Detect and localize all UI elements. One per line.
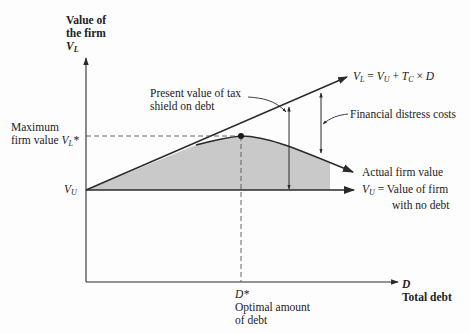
vu-def-line2: with no debt xyxy=(362,199,450,212)
max-label-line1: Maximum xyxy=(11,121,79,134)
y-axis-label-line1: Value of xyxy=(66,14,106,27)
y-axis-label: Value of the firm VL xyxy=(66,14,106,56)
y-axis-label-line2: the firm xyxy=(66,27,106,40)
optimal-line2: of debt xyxy=(235,314,310,327)
tax-shield-annotation: Present value of tax shield on debt xyxy=(150,87,241,113)
x-axis-text: Total debt xyxy=(402,291,452,304)
vl-equation: VL = VU + TC × D xyxy=(353,70,434,86)
distress-leader xyxy=(323,114,348,124)
dstar-symbol: D* xyxy=(235,288,310,301)
vu-axis-label: VU xyxy=(64,183,77,199)
tax-shield-line2: shield on debt xyxy=(150,100,241,113)
vu-definition: VU = Value of firm with no debt xyxy=(362,183,450,212)
actual-firm-value-label: Actual firm value xyxy=(362,166,443,179)
firm-value-area xyxy=(86,136,330,190)
x-axis-symbol: D xyxy=(402,278,452,291)
max-firm-value-label: Maximum firm value VL* xyxy=(11,121,79,150)
x-axis-label: D Total debt xyxy=(402,278,452,304)
tax-shield-line1: Present value of tax xyxy=(150,87,241,100)
optimum-point xyxy=(238,133,244,139)
tax-shield-leader xyxy=(248,97,286,112)
y-axis-symbol: VL xyxy=(66,40,106,56)
financial-distress-label: Financial distress costs xyxy=(350,108,456,121)
vu-def-line1: VU = Value of firm xyxy=(362,183,450,199)
optimal-line1: Optimal amount xyxy=(235,301,310,314)
optimal-debt-label: D* Optimal amount of debt xyxy=(235,288,310,327)
max-label-line2: firm value VL* xyxy=(11,134,79,150)
